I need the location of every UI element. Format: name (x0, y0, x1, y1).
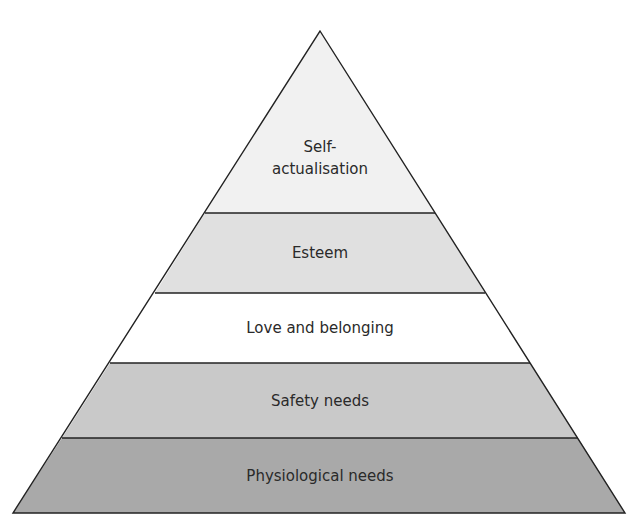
level-self-actualisation (205, 31, 435, 213)
label-esteem: Esteem (292, 244, 348, 262)
maslow-pyramid: Self- actualisation Esteem Love and belo… (0, 0, 634, 526)
label-love: Love and belonging (246, 319, 393, 337)
label-safety: Safety needs (271, 392, 369, 410)
label-self-line2: actualisation (272, 160, 368, 178)
label-self-line1: Self- (304, 138, 337, 156)
label-physiological: Physiological needs (246, 467, 393, 485)
